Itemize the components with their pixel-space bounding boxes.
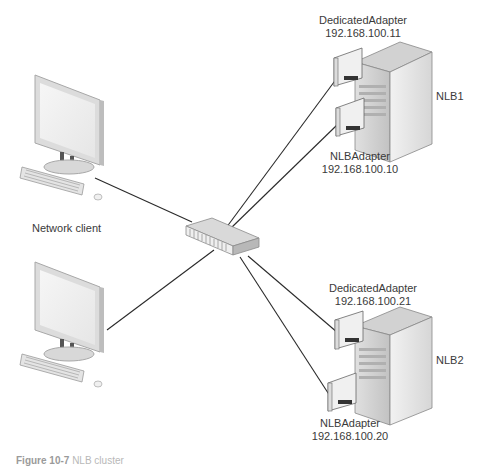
link-switch-nlb1-nlbadapter: [230, 125, 337, 229]
nlb2-name: NLB2: [436, 354, 464, 367]
figure-caption: Figure 10-7 NLB cluster: [16, 455, 124, 466]
figure-number: Figure 10-7: [16, 455, 69, 466]
nlb2-nlb-adapter-label: NLBAdapter 192.168.100.20: [300, 417, 400, 443]
link-client2-switch: [107, 250, 214, 330]
nlb2-dedicated-adapter-name: DedicatedAdapter: [318, 282, 428, 295]
nlb2-dedicated-adapter-label: DedicatedAdapter 192.168.100.21: [318, 282, 428, 308]
nlb1-nlb-adapter-label: NLBAdapter 192.168.100.10: [310, 150, 410, 176]
nlb2-nlb-adapter-ip: 192.168.100.20: [300, 430, 400, 443]
network-client-2: [20, 262, 104, 387]
nlb1-dedicated-adapter-ip: 192.168.100.11: [308, 27, 418, 40]
network-client-label: Network client: [32, 222, 101, 235]
nic-nlb-nlb2: [328, 373, 356, 411]
monitor-stand: [44, 160, 94, 174]
mouse: [94, 194, 102, 200]
nlb1-dedicated-adapter-name: DedicatedAdapter: [308, 14, 418, 27]
figure-caption-text: NLB cluster: [72, 455, 124, 466]
link-client1-switch: [95, 178, 192, 222]
server-nlb1: [334, 42, 432, 162]
server-nlb2: [328, 307, 432, 425]
nlb1-name: NLB1: [436, 90, 464, 103]
network-switch: [186, 218, 259, 255]
nlb1-nlb-adapter-ip: 192.168.100.10: [310, 163, 410, 176]
network-client-1: [20, 75, 104, 200]
nlb1-dedicated-adapter-label: DedicatedAdapter 192.168.100.11: [308, 14, 418, 40]
nlb2-dedicated-adapter-ip: 192.168.100.21: [318, 295, 428, 308]
nlb2-nlb-adapter-name: NLBAdapter: [300, 417, 400, 430]
nlb1-nlb-adapter-name: NLBAdapter: [310, 150, 410, 163]
link-switch-nlb2-nlbadapter: [240, 257, 330, 396]
